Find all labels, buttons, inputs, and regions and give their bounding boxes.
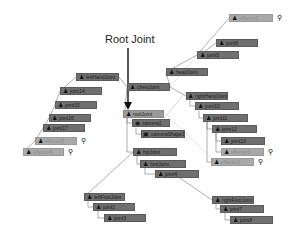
node-label: rightFootJoint <box>222 197 252 203</box>
node-label: effector4 <box>33 149 52 155</box>
node-label: effector1 <box>239 15 258 21</box>
ik-handle-icon[interactable]: ⚲ <box>68 148 73 155</box>
node-label: joint4 <box>165 171 177 177</box>
node-label: footJoint <box>150 161 169 167</box>
joint-icon: ♟ <box>168 69 174 75</box>
node-label: camera1 <box>142 120 161 126</box>
node-j15[interactable]: ♟joint15 <box>55 101 97 109</box>
node-label: hipJoint <box>143 149 160 155</box>
node-hip[interactable]: ♟hipJoint <box>133 148 177 156</box>
node-root[interactable]: ♟rootJoint <box>123 110 164 118</box>
joint-icon: ♟ <box>205 115 211 121</box>
node-j16[interactable]: ♟joint16 <box>49 114 91 122</box>
joint-icon: ♟ <box>232 217 238 223</box>
node-effL2[interactable]: ♟effector4 <box>23 148 64 156</box>
node-j2[interactable]: ♟joint2 <box>93 203 135 211</box>
node-label: joint8 <box>240 217 252 223</box>
joint-icon: ♟ <box>86 194 92 200</box>
node-j14[interactable]: ♟joint14 <box>60 87 102 95</box>
node-jointHead2[interactable]: ♟joint6 <box>216 39 258 47</box>
joint-icon: ♟ <box>218 40 224 46</box>
node-j7[interactable]: ♟joint7 <box>220 205 264 213</box>
joint-icon: ♟ <box>106 215 112 221</box>
joint-icon: ♟ <box>62 88 68 94</box>
joint-icon: ♟ <box>214 126 220 132</box>
joint-icon: ♟ <box>231 15 237 21</box>
node-label: joint12 <box>222 126 237 132</box>
node-label: joint7 <box>230 206 242 212</box>
ik-handle-icon[interactable]: ⚲ <box>268 148 273 155</box>
ik-handle-icon[interactable]: ⚲ <box>277 14 282 21</box>
node-label: leftHandJoint <box>86 74 115 80</box>
node-footL[interactable]: ♟footJoint <box>140 160 186 168</box>
node-j8[interactable]: ♟joint8 <box>230 216 273 224</box>
joint-icon: ♟ <box>51 115 57 121</box>
node-camera[interactable]: ◉camera1 <box>132 119 170 127</box>
node-lLeg[interactable]: ♟leftFootJoint <box>84 193 125 201</box>
node-chest[interactable]: ♟chestJoint <box>127 83 170 91</box>
joint-icon: ♟ <box>142 161 148 167</box>
joint-icon: ♟ <box>214 197 220 203</box>
node-rLeg[interactable]: ♟rightFootJoint <box>212 196 254 204</box>
node-label: cameraShape1 <box>151 131 185 137</box>
joint-icon: ♟ <box>37 138 43 144</box>
node-label: effector5 <box>45 138 64 144</box>
joint-icon: ♟ <box>223 149 229 155</box>
node-label: effector3 <box>231 149 250 155</box>
node-effectorTop[interactable]: ♟effector1 <box>229 14 273 22</box>
node-label: rightHandJoint <box>195 93 227 99</box>
node-label: rootJoint <box>133 111 152 117</box>
node-label: joint16 <box>59 115 74 121</box>
ik-handle-icon[interactable]: ⚲ <box>258 158 263 165</box>
joint-icon: ♟ <box>222 206 228 212</box>
node-j17[interactable]: ♟joint17 <box>43 124 85 132</box>
joint-icon: ♟ <box>95 204 101 210</box>
joint-icon: ♟ <box>213 159 219 165</box>
joint-icon: ♟ <box>188 93 193 99</box>
shape-icon: ▣ <box>143 131 149 137</box>
node-effR1[interactable]: ♟effector3 <box>221 148 264 156</box>
node-rShoulder[interactable]: ♟rightHandJoint <box>186 92 228 100</box>
node-label: joint15 <box>65 102 80 108</box>
node-j13[interactable]: ♟joint13 <box>221 137 265 145</box>
root-joint-label: Root Joint <box>105 33 155 45</box>
hypergraph-diagram: Root Joint ♟effector1⚲♟joint6♟joint5♟hea… <box>0 0 296 235</box>
node-j3[interactable]: ♟joint3 <box>104 214 146 222</box>
joint-icon: ♟ <box>45 125 51 131</box>
joint-icon: ♟ <box>78 74 84 80</box>
node-label: effector2 <box>221 159 240 165</box>
node-label: joint3 <box>114 215 126 221</box>
node-label: headJoint <box>176 69 198 75</box>
node-label: joint13 <box>231 138 246 144</box>
node-label: joint5 <box>207 52 219 58</box>
node-cameraShape[interactable]: ▣cameraShape1 <box>141 130 185 138</box>
node-effR2[interactable]: ♟effector2 <box>211 158 254 166</box>
joint-icon: ♟ <box>223 138 229 144</box>
joint-icon: ♟ <box>157 171 163 177</box>
node-label: joint14 <box>70 88 85 94</box>
node-j11[interactable]: ♟joint11 <box>203 114 248 122</box>
node-neck[interactable]: ♟headJoint <box>166 68 208 76</box>
node-label: joint10 <box>205 103 220 109</box>
node-j10[interactable]: ♟joint10 <box>195 102 239 110</box>
joint-icon: ♟ <box>125 111 131 117</box>
node-label: joint17 <box>53 125 68 131</box>
node-j12[interactable]: ♟joint12 <box>212 125 257 133</box>
ik-handle-icon[interactable]: ⚲ <box>81 137 86 144</box>
node-label: chestJoint <box>137 84 160 90</box>
joint-icon: ♟ <box>129 84 135 90</box>
node-label: joint11 <box>213 115 227 121</box>
joint-icon: ♟ <box>57 102 63 108</box>
node-label: leftFootJoint <box>94 194 121 200</box>
node-jointHead1[interactable]: ♟joint5 <box>197 51 239 59</box>
joint-icon: ♟ <box>197 103 203 109</box>
node-label: joint2 <box>103 204 115 210</box>
node-jFoot[interactable]: ♟joint4 <box>155 170 199 178</box>
joint-icon: ♟ <box>199 52 205 58</box>
joint-icon: ♟ <box>135 149 141 155</box>
node-label: joint6 <box>226 40 238 46</box>
node-lShoulder[interactable]: ♟leftHandJoint <box>76 73 119 81</box>
joint-icon: ♟ <box>25 149 31 155</box>
camera-icon: ◉ <box>134 120 140 126</box>
node-effL1[interactable]: ♟effector5 <box>35 137 77 145</box>
